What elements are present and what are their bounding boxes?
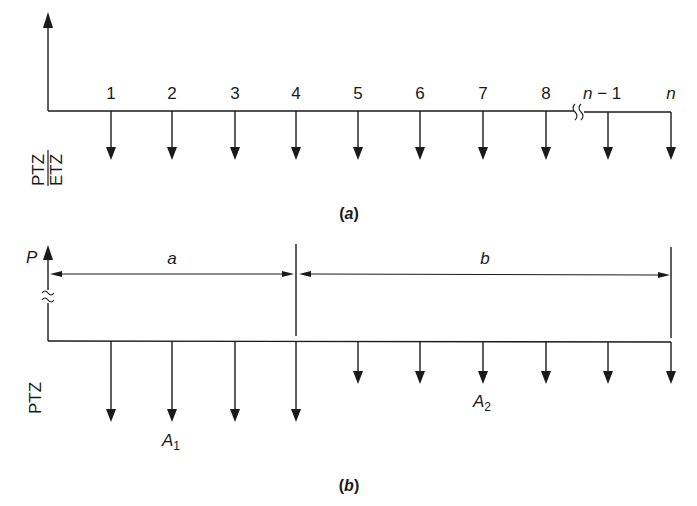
panel-a-period-labels: 1 2 3 4 5 6 7 8 n − 1 n: [106, 84, 675, 103]
panel-b-side-label: PTZ: [26, 382, 45, 414]
period-label-n-minus-1: n − 1: [583, 84, 621, 103]
panel-b-timeline: [48, 341, 671, 342]
panel-a-caption: (a): [339, 205, 359, 222]
period-label-1: 1: [106, 84, 115, 103]
panel-b-a2-arrows: [353, 342, 676, 384]
annuity-a1-label: A1: [161, 431, 180, 453]
panel-a-break-icon: [573, 104, 583, 120]
span-b-dimension-arrow: [310, 274, 659, 275]
panel-b-a1-arrows: [106, 341, 301, 422]
panel-b-break-icon: [42, 291, 54, 302]
present-value-label: P: [26, 248, 38, 267]
period-label-2: 2: [167, 84, 176, 103]
period-label-6: 6: [415, 84, 424, 103]
side-label-ptz: PTZ: [29, 154, 48, 186]
annuity-a2-label: A2: [472, 392, 491, 414]
period-label-n: n: [666, 84, 675, 103]
side-label-etz: ETZ: [47, 154, 66, 186]
cash-flow-diagrams: 1 2 3 4 5 6 7 8 n − 1 n PTZ ETZ (a): [0, 0, 697, 506]
panel-b: [42, 244, 676, 422]
span-b-label: b: [480, 249, 489, 268]
panel-b-caption: (b): [339, 477, 359, 494]
panel-a-side-label: PTZ ETZ: [29, 150, 66, 186]
panel-b-up-arrowhead-icon: [43, 245, 53, 260]
period-label-3: 3: [230, 84, 239, 103]
period-label-7: 7: [478, 84, 487, 103]
panel-a-cashflow-arrows: [106, 111, 676, 160]
panel-a-up-arrowhead-icon: [43, 12, 53, 28]
period-label-8: 8: [541, 84, 550, 103]
period-label-4: 4: [291, 84, 300, 103]
span-a-label: a: [167, 249, 176, 268]
period-label-5: 5: [353, 84, 362, 103]
